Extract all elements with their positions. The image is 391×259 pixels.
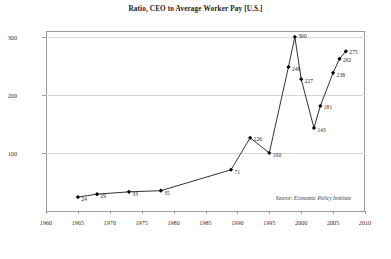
plot-frame-top (46, 31, 365, 32)
x-tick-label: 1975 (136, 219, 148, 226)
source-annotation: Source: Economic Policy Institute (276, 195, 352, 201)
x-tick-label: 2000 (295, 219, 307, 226)
y-tick-label: 300 (8, 33, 17, 40)
x-tick-mark (110, 211, 111, 214)
x-tick-mark (237, 211, 238, 214)
data-point-label: 275 (349, 49, 357, 55)
x-tick-mark (333, 211, 334, 214)
data-point-label: 300 (298, 33, 306, 39)
data-point-label: 238 (337, 72, 345, 78)
gridline (46, 153, 365, 154)
x-tick-mark (142, 211, 143, 214)
x-tick-mark (365, 211, 366, 214)
x-tick-label: 1960 (40, 219, 52, 226)
y-tick-label: 100 (8, 149, 17, 156)
data-point-label: 35 (164, 190, 170, 196)
x-tick-label: 1970 (104, 219, 116, 226)
x-tick-mark (78, 211, 79, 214)
data-point-label: 33 (132, 191, 138, 197)
data-point-label: 181 (324, 104, 332, 110)
y-tick-mark (42, 37, 46, 38)
data-point-label: 262 (343, 57, 351, 63)
plot-frame-left (46, 31, 47, 212)
plot-frame-right (364, 31, 365, 212)
y-tick-label: 200 (8, 91, 17, 98)
plot-area: Source: Economic Policy Institute (46, 31, 365, 212)
y-tick-mark (42, 95, 46, 96)
x-tick-mark (301, 211, 302, 214)
data-point-label: 71 (235, 169, 241, 175)
x-tick-mark (46, 211, 47, 214)
x-tick-label: 1995 (263, 219, 275, 226)
gridline (46, 95, 365, 96)
data-point-label: 29 (101, 193, 107, 199)
x-tick-label: 1980 (167, 219, 179, 226)
data-point-label: 143 (317, 127, 325, 133)
data-point-label: 126 (254, 136, 262, 142)
x-tick-mark (174, 211, 175, 214)
data-point-label: 248 (292, 66, 300, 72)
chart-title: Ratio, CEO to Average Worker Pay [U.S.] (0, 5, 391, 13)
x-tick-label: 2010 (359, 219, 371, 226)
x-tick-label: 1985 (199, 219, 211, 226)
data-point-label: 100 (273, 152, 281, 158)
gridline (46, 37, 365, 38)
chart-container: Ratio, CEO to Average Worker Pay [U.S.] … (0, 0, 391, 259)
y-tick-mark (42, 153, 46, 154)
x-tick-label: 1965 (72, 219, 84, 226)
x-tick-label: 1990 (231, 219, 243, 226)
data-point-label: 24 (81, 196, 87, 202)
x-tick-label: 2005 (327, 219, 339, 226)
x-tick-mark (206, 211, 207, 214)
data-point-label: 227 (305, 78, 313, 84)
x-tick-mark (269, 211, 270, 214)
